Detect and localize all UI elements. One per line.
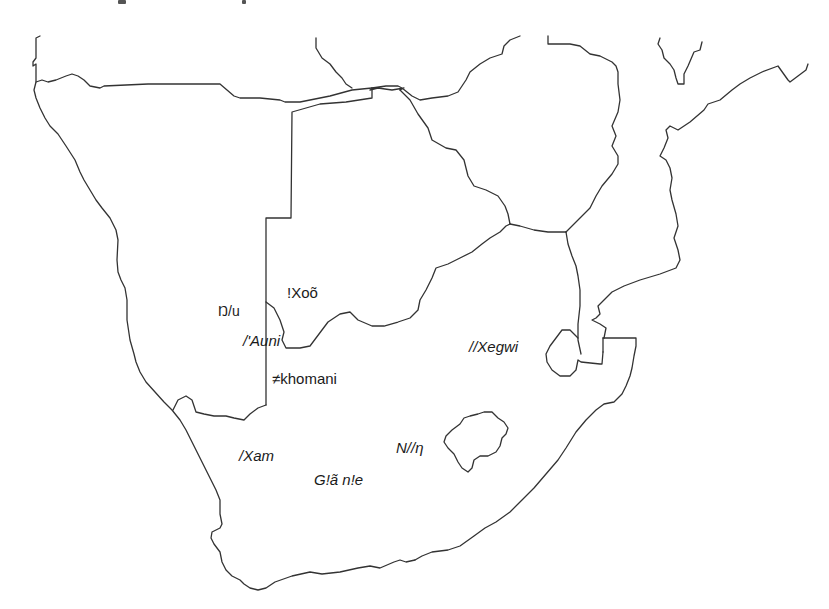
- zambia-zimbabwe-border: [370, 36, 520, 100]
- zimbabwe-mozambique-border: [548, 36, 620, 232]
- label-nu: Ŋ/u: [218, 304, 240, 318]
- mozambique-coastline: [592, 64, 808, 352]
- label-khomani: ≠khomani: [272, 371, 337, 386]
- lake-malawi-outline: [658, 38, 702, 84]
- botswana-namibia-border: [266, 88, 372, 405]
- map-canvas: [0, 0, 829, 609]
- swaziland-outline: [546, 330, 603, 376]
- namibia-south-africa-border: [173, 396, 266, 420]
- lesotho-outline: [444, 412, 508, 472]
- south-africa-mozambique-border: [566, 232, 581, 354]
- label-nng: N//η: [396, 440, 424, 455]
- label-xegwi: //Xegwi: [469, 339, 518, 354]
- label-auni: /'Auni: [243, 333, 280, 348]
- zambia-west-border: [316, 38, 352, 88]
- label-giane: G!ã n!e: [314, 472, 363, 487]
- botswana-zimbabwe-border: [400, 90, 510, 224]
- label-xam: /Xam: [239, 448, 274, 463]
- label-xoo: !Xoõ: [287, 285, 318, 300]
- zimbabwe-south-africa-border: [510, 224, 566, 232]
- namibia-angola-border: [36, 74, 372, 102]
